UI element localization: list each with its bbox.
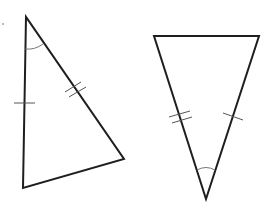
angle-arc-icon <box>25 44 43 49</box>
double-tick-mark-2 <box>69 87 86 97</box>
triangle-right-outline <box>154 36 259 199</box>
diagram-canvas <box>0 0 272 208</box>
angle-arc-icon <box>197 168 215 171</box>
stray-dot <box>2 23 4 25</box>
triangle-right <box>154 36 259 199</box>
triangle-left <box>14 17 124 188</box>
triangle-left-outline <box>23 17 124 188</box>
